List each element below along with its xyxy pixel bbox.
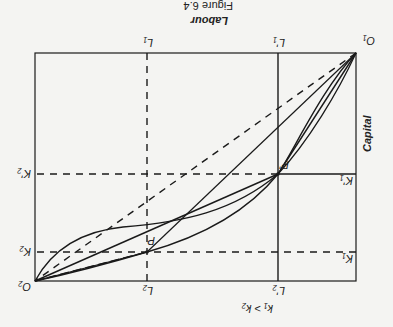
figure-caption: Figure 6.4 xyxy=(183,0,233,12)
figure-rotated: O₁ O₂ L'₁ L₁ L'₂ L₂ K'₁ K₁ K'₂ K₂ P' P L… xyxy=(0,0,393,327)
axis-label-labour: Labour xyxy=(190,15,228,27)
label-K1p: K'₁ xyxy=(340,175,353,187)
inequality-label: k₁ > k₂ xyxy=(241,303,273,315)
label-Pp: P' xyxy=(279,159,289,171)
label-P: P xyxy=(147,235,155,247)
label-layer: O₁ O₂ L'₁ L₁ L'₂ L₂ K'₁ K₁ K'₂ K₂ P' P L… xyxy=(0,0,393,327)
label-O1: O₁ xyxy=(362,35,375,47)
label-L1p-bottom: L'₁ xyxy=(273,37,285,49)
label-K2p: K'₂ xyxy=(17,168,31,180)
label-K1: K₁ xyxy=(342,253,353,265)
axis-label-capital: Capital xyxy=(361,114,373,152)
label-K2: K₂ xyxy=(19,246,31,258)
label-O2: O₂ xyxy=(17,281,31,293)
label-L2p-top: L'₂ xyxy=(272,285,285,297)
label-L1-bottom: L₁ xyxy=(143,37,153,49)
label-L2-top: L₂ xyxy=(142,285,153,297)
